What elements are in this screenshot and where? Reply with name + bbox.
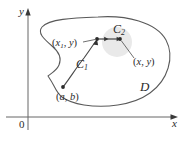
point-x1-y-close-paren: ) bbox=[74, 37, 78, 48]
point-a-b-dot bbox=[61, 85, 65, 89]
line-integral-path-independence-figure: y x 0 C1 C2 D (x1, y) (x, y) (a, b) bbox=[0, 0, 187, 147]
origin-label: 0 bbox=[19, 119, 25, 130]
point-x-y-dot bbox=[118, 37, 122, 41]
point-x1-y-dot bbox=[95, 37, 99, 41]
curve-c2-letter: C bbox=[113, 22, 121, 36]
point-x1-y-label: (x1, y) bbox=[52, 38, 77, 50]
curve-c2-subscript: 2 bbox=[121, 28, 125, 37]
point-a-b-label: (a, b) bbox=[56, 92, 79, 103]
region-d-label: D bbox=[140, 80, 149, 93]
curve-c1-subscript: 1 bbox=[84, 63, 88, 72]
point-a-b-close-paren: ) bbox=[75, 91, 79, 102]
curve-c1-letter: C bbox=[76, 57, 84, 71]
curve-c2-label: C2 bbox=[113, 23, 125, 37]
point-x-y-label: (x, y) bbox=[133, 57, 155, 68]
leader-line-x1-y bbox=[83, 40, 95, 43]
y-axis-label: y bbox=[19, 6, 24, 17]
y-axis-arrowhead-icon bbox=[25, 8, 30, 16]
x-axis-label: x bbox=[172, 118, 177, 129]
point-x-y-close-paren: ) bbox=[151, 56, 155, 67]
figure-canvas bbox=[0, 0, 187, 147]
curve-c1-label: C1 bbox=[76, 58, 88, 72]
